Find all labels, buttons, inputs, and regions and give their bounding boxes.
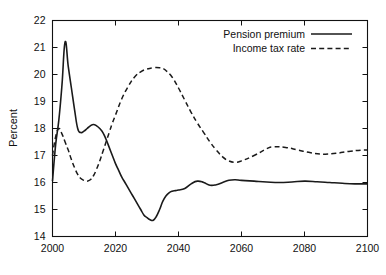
y-tick-label: 22 <box>34 14 46 26</box>
legend-label-2: Income tax rate <box>233 42 306 54</box>
x-tick-label: 2040 <box>167 242 191 254</box>
y-tick-label: 14 <box>34 230 46 242</box>
x-tick-label: 2020 <box>104 242 128 254</box>
x-tick-label: 2100 <box>356 242 380 254</box>
y-axis-label: Percent <box>7 109 19 147</box>
x-tick-label: 2060 <box>230 242 254 254</box>
y-tick-label: 16 <box>34 176 46 188</box>
y-axis-tick-labels: 141516171819202122 <box>34 14 46 242</box>
line-chart: 141516171819202122 200020202040206020802… <box>0 0 386 275</box>
x-tick-label: 2000 <box>41 242 65 254</box>
chart-figure: 141516171819202122 200020202040206020802… <box>0 0 386 275</box>
y-tick-label: 21 <box>34 41 46 53</box>
y-tick-label: 17 <box>34 149 46 161</box>
chart-background <box>0 0 386 275</box>
y-tick-label: 15 <box>34 203 46 215</box>
y-tick-label: 19 <box>34 95 46 107</box>
y-tick-label: 18 <box>34 122 46 134</box>
y-tick-label: 20 <box>34 68 46 80</box>
legend-label-1: Pension premium <box>223 28 305 40</box>
x-tick-label: 2080 <box>293 242 317 254</box>
